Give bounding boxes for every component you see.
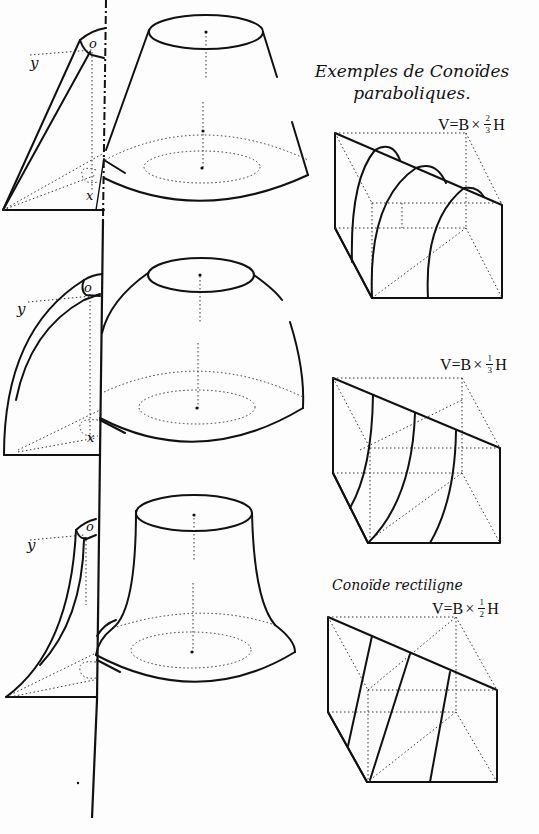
formula-lhs: V=B <box>440 357 471 373</box>
row3-label-o: o <box>86 520 94 533</box>
formula-fraction: 2 3 <box>484 114 491 135</box>
row3-volume-formula: V=B × 1 2 H <box>432 598 499 619</box>
formula-fraction: 1 2 <box>478 598 485 619</box>
formula-op: × <box>465 601 474 617</box>
formula-rhs: H <box>487 601 499 617</box>
row2-label-x: x <box>87 431 94 444</box>
row1-label-y: y <box>30 56 38 71</box>
formula-rhs: H <box>493 117 505 133</box>
row1-profile <box>3 28 125 210</box>
row1-solid <box>104 15 308 201</box>
formula-op: × <box>473 357 482 373</box>
formula-denominator: 2 <box>480 610 485 619</box>
formula-op: × <box>471 117 480 133</box>
row1-label-o: o <box>89 37 97 50</box>
row2-prism <box>333 378 500 543</box>
formula-rhs: H <box>495 357 507 373</box>
formula-lhs: V=B <box>438 117 469 133</box>
formula-fraction: 1 3 <box>486 354 493 375</box>
row1-prism <box>335 133 502 298</box>
row3-label-y: y <box>27 538 35 553</box>
plate-title-line1: Exemples de Conoïdes <box>312 60 512 82</box>
formula-numerator: 1 <box>480 598 485 607</box>
row3-prism <box>328 617 497 782</box>
formula-denominator: 3 <box>486 126 491 135</box>
engraving-plate: Exemples de Conoïdes paraboliques. y o x… <box>0 0 539 834</box>
row2-label-y: y <box>17 302 25 317</box>
row3-profile <box>6 519 120 697</box>
print-speck <box>77 782 79 784</box>
row1-label-x: x <box>86 189 93 202</box>
row2-solid <box>100 258 303 442</box>
formula-denominator: 3 <box>488 366 493 375</box>
row1-volume-formula: V=B × 2 3 H <box>438 114 505 135</box>
row3-subtitle: Conoïde rectiligne <box>332 577 463 593</box>
formula-numerator: 1 <box>488 354 493 363</box>
plate-title: Exemples de Conoïdes paraboliques. <box>312 60 512 104</box>
row3-solid <box>96 495 295 682</box>
vertical-axis <box>92 0 106 818</box>
formula-lhs: V=B <box>432 601 463 617</box>
row2-volume-formula: V=B × 1 3 H <box>440 354 507 375</box>
row2-label-o: o <box>84 281 92 294</box>
formula-numerator: 2 <box>486 114 491 123</box>
plate-title-line2: paraboliques. <box>312 82 512 104</box>
